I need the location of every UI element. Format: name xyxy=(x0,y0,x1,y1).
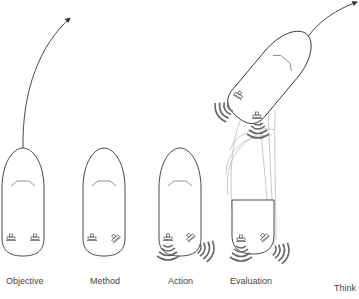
stage-think-vessel xyxy=(212,2,357,138)
stage-label-think: Think xyxy=(334,283,356,293)
stage-method-vessel xyxy=(83,148,125,256)
stage-evaluation-vessel xyxy=(230,200,291,265)
stage-action-vessel xyxy=(157,148,216,263)
stage-objective-vessel xyxy=(2,18,70,256)
process-diagram xyxy=(0,0,359,299)
stage-label-objective: Objective xyxy=(6,276,44,286)
stage-label-evaluation: Evaluation xyxy=(230,276,272,286)
stage-label-method: Method xyxy=(90,276,120,286)
trajectory-arrow xyxy=(307,2,357,38)
trajectory-arrow xyxy=(23,18,70,148)
stage-label-action: Action xyxy=(168,276,193,286)
